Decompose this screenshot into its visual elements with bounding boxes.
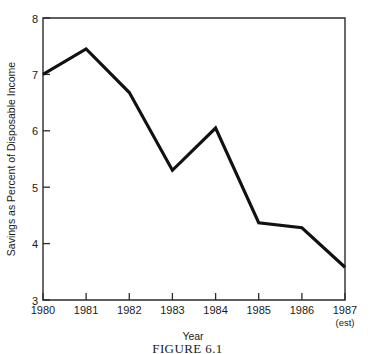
y-axis-tick-labels: 8 7 6 5 4 3 (32, 13, 38, 307)
x-tick-label-1980: 1980 (31, 304, 55, 316)
x-tick-label-1986: 1986 (290, 304, 314, 316)
x-tick-annotation-est: (est) (336, 317, 355, 328)
x-tick-label-1981: 1981 (74, 304, 98, 316)
figure-container: 8 7 6 5 4 3 1980 1981 1982 1983 1984 198… (0, 0, 375, 354)
x-tick-label-1987: 1987 (333, 304, 357, 316)
x-axis-ticks (43, 293, 345, 300)
y-axis-ticks (43, 18, 50, 300)
x-tick-label-1984: 1984 (203, 304, 227, 316)
y-tick-label-7: 7 (32, 69, 38, 81)
figure-caption: FIGURE 6.1 (0, 341, 375, 354)
y-tick-label-5: 5 (32, 182, 38, 194)
data-series-group (43, 49, 345, 267)
axes-border (43, 18, 345, 300)
y-axis-title: Savings as Percent of Disposable Income (5, 62, 17, 257)
x-tick-label-1985: 1985 (246, 304, 270, 316)
y-tick-label-6: 6 (32, 125, 38, 137)
savings-rate-line (43, 49, 345, 267)
y-tick-label-8: 8 (32, 13, 38, 25)
y-tick-label-4: 4 (32, 238, 38, 250)
savings-rate-line-chart: 8 7 6 5 4 3 1980 1981 1982 1983 1984 198… (0, 0, 375, 354)
x-axis-tick-labels: 1980 1981 1982 1983 1984 1985 1986 1987 … (31, 304, 357, 328)
x-tick-label-1983: 1983 (160, 304, 184, 316)
x-tick-label-1982: 1982 (117, 304, 141, 316)
plot-frame (43, 18, 345, 300)
